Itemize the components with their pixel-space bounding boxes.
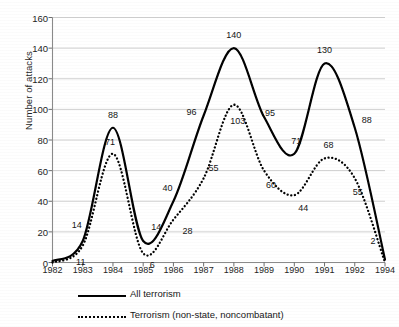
data-point-label: 68 — [324, 140, 334, 150]
legend-label: Terrorism (non-state, noncombatant) — [130, 309, 284, 320]
x-tick-label: 1982 — [42, 265, 62, 275]
x-tick-label: 1991 — [315, 265, 335, 275]
x-tick-label: 1983 — [73, 265, 93, 275]
x-tick-label: 1984 — [103, 265, 123, 275]
legend-key-dotted — [78, 316, 126, 318]
data-point-label: 71 — [105, 137, 115, 147]
data-point-label: 55 — [209, 163, 219, 173]
data-point-label: 60 — [266, 180, 276, 190]
x-tick-label: 1992 — [345, 265, 365, 275]
x-tick-label: 1994 — [375, 265, 395, 275]
x-tick-label: 1987 — [194, 265, 214, 275]
data-point-label: 140 — [226, 30, 241, 40]
x-tick-label: 1985 — [133, 265, 153, 275]
terrorism-attacks-line-chart: Number of attacks 020406080100120140160 … — [0, 0, 399, 327]
data-point-label: 2 — [370, 236, 375, 246]
data-point-label: 71 — [291, 136, 301, 146]
data-point-label: 55 — [353, 187, 363, 197]
legend-label: All terrorism — [130, 288, 181, 299]
x-tick-label: 1988 — [224, 265, 244, 275]
data-point-label: 130 — [317, 45, 332, 55]
data-point-label: 95 — [265, 108, 275, 118]
legend-key-solid — [78, 295, 126, 297]
data-point-label: 14 — [151, 222, 161, 232]
data-point-label: 103 — [230, 116, 245, 126]
data-point-label: 88 — [108, 110, 118, 120]
x-tick-label: 1986 — [163, 265, 183, 275]
data-point-label: 96 — [187, 107, 197, 117]
data-point-label: 14 — [72, 220, 82, 230]
data-point-label: 40 — [162, 183, 172, 193]
chart-legend: All terrorismTerrorism (non-state, nonco… — [0, 288, 399, 327]
x-tick-label: 1989 — [254, 265, 274, 275]
data-point-label: 28 — [182, 226, 192, 236]
data-point-label: 44 — [298, 203, 308, 213]
x-axis-tick-labels: 1982198319841985198619871988198919901991… — [0, 264, 399, 282]
x-tick-label: 1990 — [284, 265, 304, 275]
legend-item: All terrorism — [0, 288, 399, 304]
data-point-label: 88 — [362, 115, 372, 125]
legend-item: Terrorism (non-state, noncombatant) — [0, 309, 399, 325]
